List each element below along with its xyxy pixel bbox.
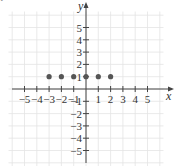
x-tick-label: 4 [132,93,138,105]
data-point [83,74,88,79]
y-tick-label: 4 [77,34,83,46]
x-tick-label: −3 [43,93,55,105]
y-tick-label: 5 [77,22,83,34]
y-tick-label: 1 [77,71,83,83]
y-axis-label: y [77,0,84,13]
y-tick-label: 2 [77,58,83,70]
x-tick-label: 3 [120,93,126,105]
data-point [59,74,64,79]
data-point [108,74,113,79]
y-tick-label: −2 [70,108,82,120]
y-tick-label: −4 [70,132,82,144]
x-tick-label: −5 [19,93,31,105]
data-point [47,74,52,79]
x-tick-label: 1 [96,93,102,105]
x-tick-label: 2 [108,93,114,105]
x-tick-label: −2 [56,93,68,105]
data-point [71,74,76,79]
y-tick-label: −3 [70,120,82,132]
y-tick-label: −5 [70,145,82,157]
x-tick-label: −4 [31,93,43,105]
data-point [96,74,101,79]
x-tick-label: 5 [145,93,151,105]
y-tick-label: −1 [70,95,82,107]
y-axis-arrow-icon [84,2,89,8]
coordinate-plane: xy−5−4−3−2−112345−5−4−3−2−112345 [0,0,177,166]
x-axis-label: x [165,89,172,103]
y-tick-label: 3 [77,46,83,58]
